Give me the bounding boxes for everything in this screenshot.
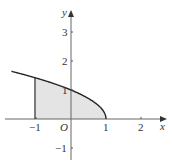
y-axis-arrow-icon (68, 10, 74, 17)
x-axis-label: x (159, 120, 165, 132)
y-tick-label: −1 (55, 142, 67, 154)
origin-label: O (60, 121, 68, 133)
y-tick-label: 1 (62, 84, 68, 96)
y-tick-label: 3 (62, 26, 68, 38)
x-tick-label: 2 (138, 121, 144, 133)
x-tick-label: 1 (103, 121, 109, 133)
x-tick-label: −1 (29, 121, 41, 133)
plot-area: −112−1123 x y O (0, 0, 172, 166)
y-tick-label: 2 (62, 55, 68, 67)
chart: −112−1123 x y O (0, 0, 172, 166)
y-axis-label: y (61, 6, 67, 18)
